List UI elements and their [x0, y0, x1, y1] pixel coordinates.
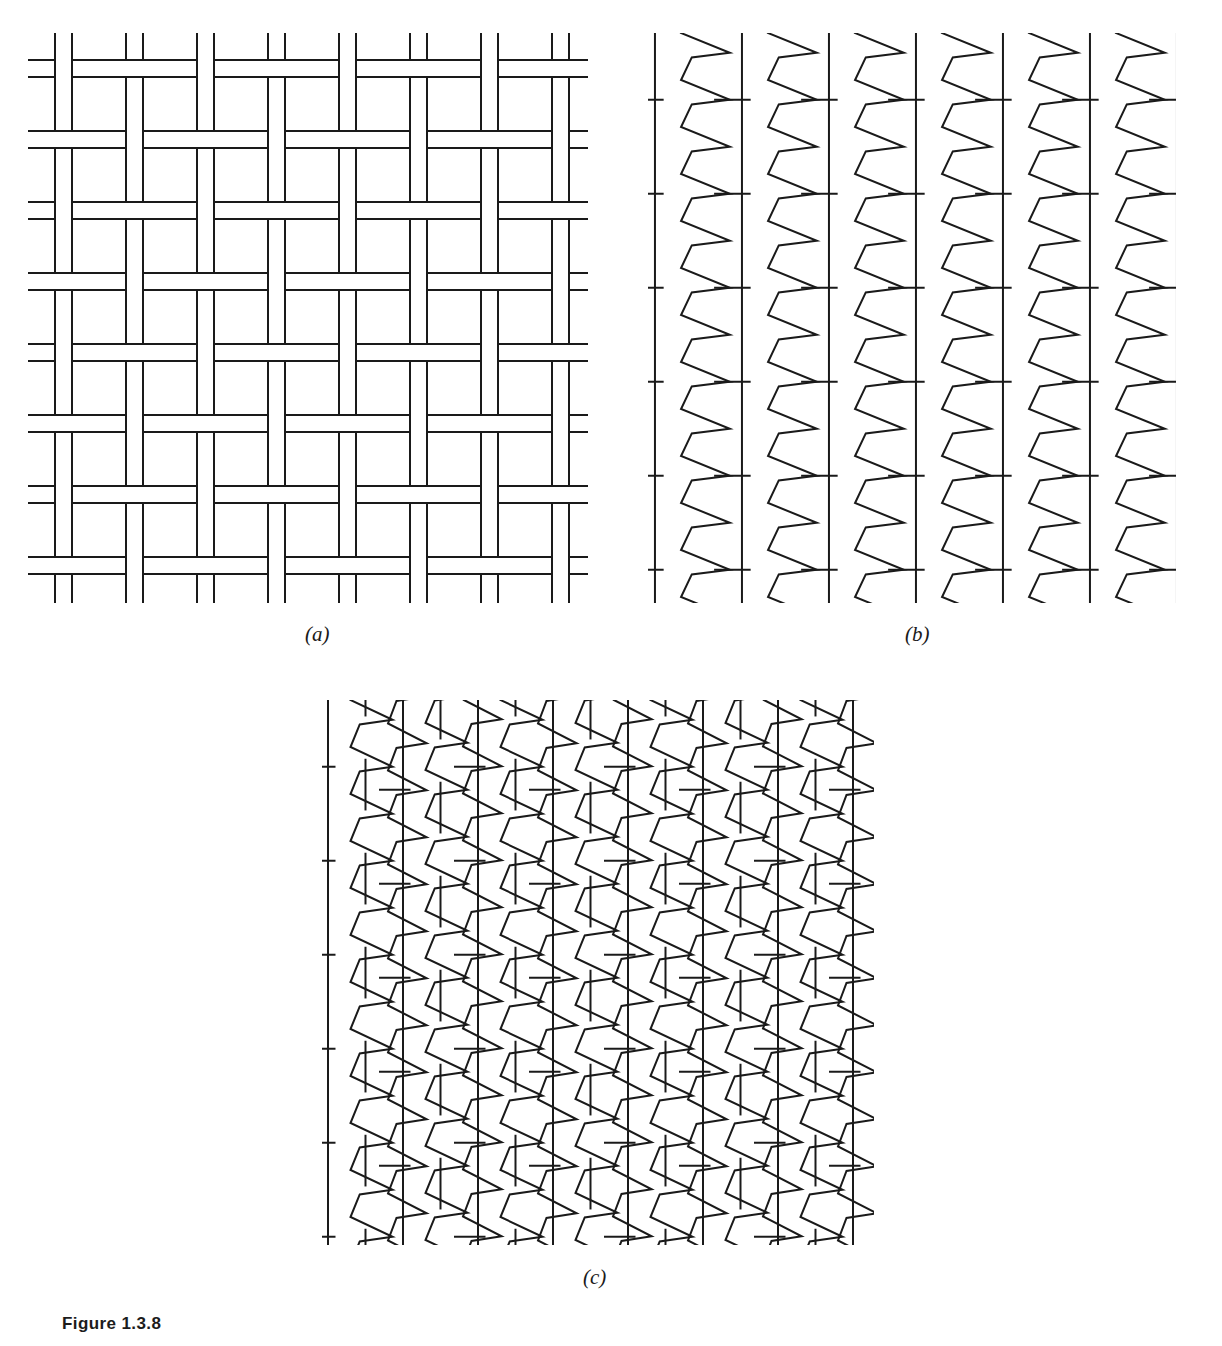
figure-container: (a) (b) (c) Figure 1.3.8 [0, 0, 1222, 1346]
panel-a-basket-weave [28, 33, 588, 603]
panel-b-label: (b) [905, 622, 930, 647]
panel-a-label: (a) [305, 622, 330, 647]
panel-c-knit-chevron-staggered [322, 700, 874, 1245]
figure-caption: Figure 1.3.8 [62, 1314, 161, 1334]
panel-b-knit-chevron [648, 33, 1176, 603]
panel-c-label: (c) [583, 1265, 606, 1290]
